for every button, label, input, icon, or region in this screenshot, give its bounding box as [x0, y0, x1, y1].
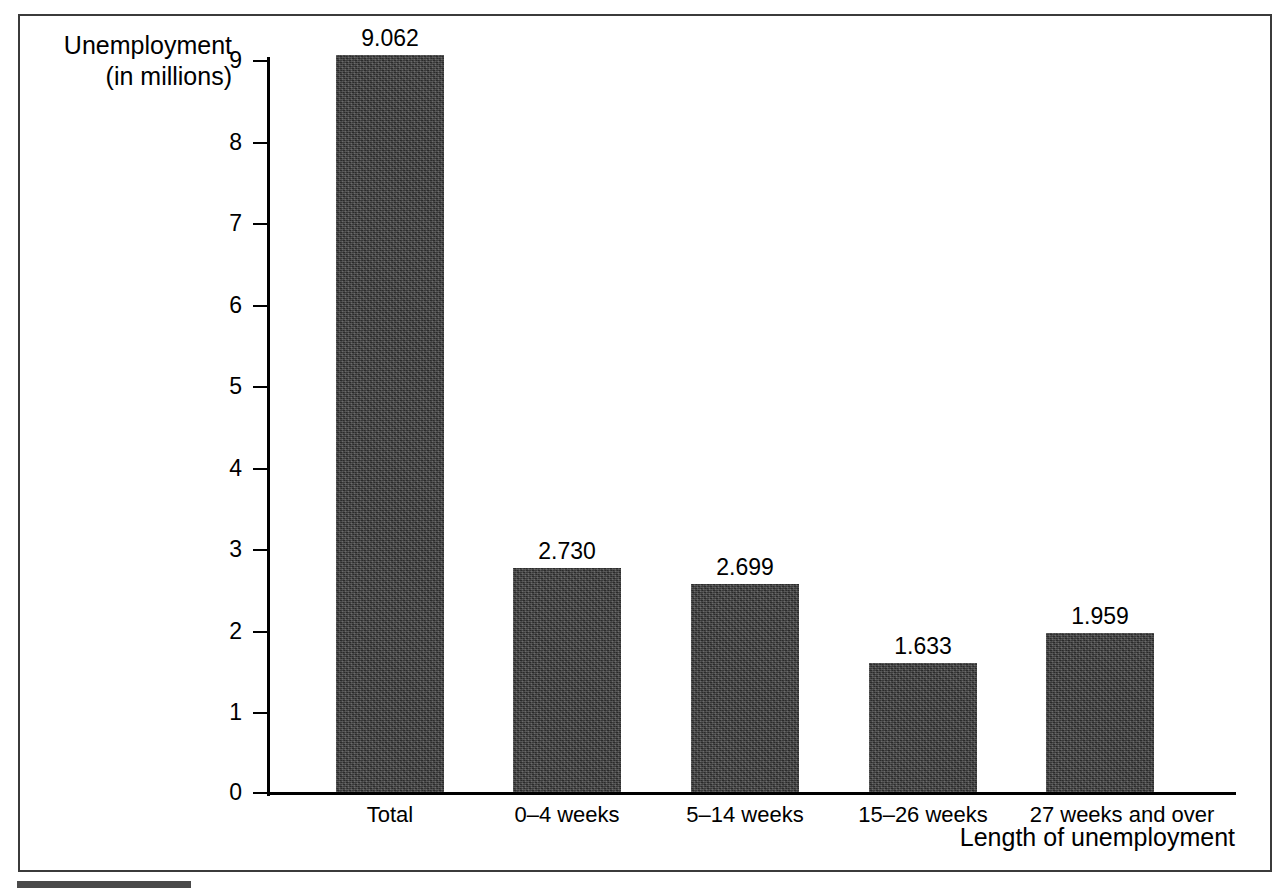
y-tick-label: 6 — [200, 294, 242, 317]
y-tick-label: 1 — [200, 701, 242, 724]
y-tick-mark — [253, 60, 268, 62]
bar-value-label: 2.699 — [716, 556, 774, 579]
y-tick-label: 4 — [200, 457, 242, 480]
bar-group: 2.699 — [691, 0, 799, 792]
bar-value-label: 9.062 — [361, 27, 419, 50]
y-tick-label: 7 — [200, 212, 242, 235]
y-tick-label: 0 — [200, 781, 242, 804]
bar[interactable] — [691, 584, 799, 792]
bar-value-label: 2.730 — [538, 540, 596, 563]
y-tick-mark — [253, 386, 268, 388]
y-tick-label: 2 — [200, 620, 242, 643]
bar[interactable] — [336, 55, 444, 792]
y-tick-label: 5 — [200, 375, 242, 398]
bar-group: 1.633 — [869, 0, 977, 792]
x-axis-title: Length of unemployment — [700, 822, 1235, 852]
bar-value-label: 1.633 — [894, 635, 952, 658]
bar-group: 9.062 — [336, 0, 444, 792]
bar-group: 2.730 — [513, 0, 621, 792]
y-tick-label: 8 — [200, 131, 242, 154]
y-tick-mark — [253, 142, 268, 144]
bar-group: 1.959 — [1046, 0, 1154, 792]
bar-chart-figure: Unemployment(in millions) 9 8 7 6 5 4 3 … — [0, 0, 1288, 893]
y-tick-mark — [253, 468, 268, 470]
y-tick-mark — [253, 223, 268, 225]
bar-value-label: 1.959 — [1071, 605, 1129, 628]
caption-rule — [17, 881, 191, 888]
y-tick-mark — [253, 712, 268, 714]
bar[interactable] — [1046, 633, 1154, 792]
bar[interactable] — [869, 663, 977, 792]
x-axis-line — [267, 792, 1236, 795]
y-tick-label: 9 — [200, 49, 242, 72]
x-category-label: Total — [336, 802, 444, 828]
y-tick-mark — [253, 792, 268, 794]
y-tick-label: 3 — [200, 538, 242, 561]
bar[interactable] — [513, 568, 621, 792]
x-category-label: 0–4 weeks — [495, 802, 639, 828]
y-tick-mark — [253, 631, 268, 633]
y-tick-mark — [253, 305, 268, 307]
y-tick-mark — [253, 549, 268, 551]
y-axis-line — [267, 57, 270, 796]
